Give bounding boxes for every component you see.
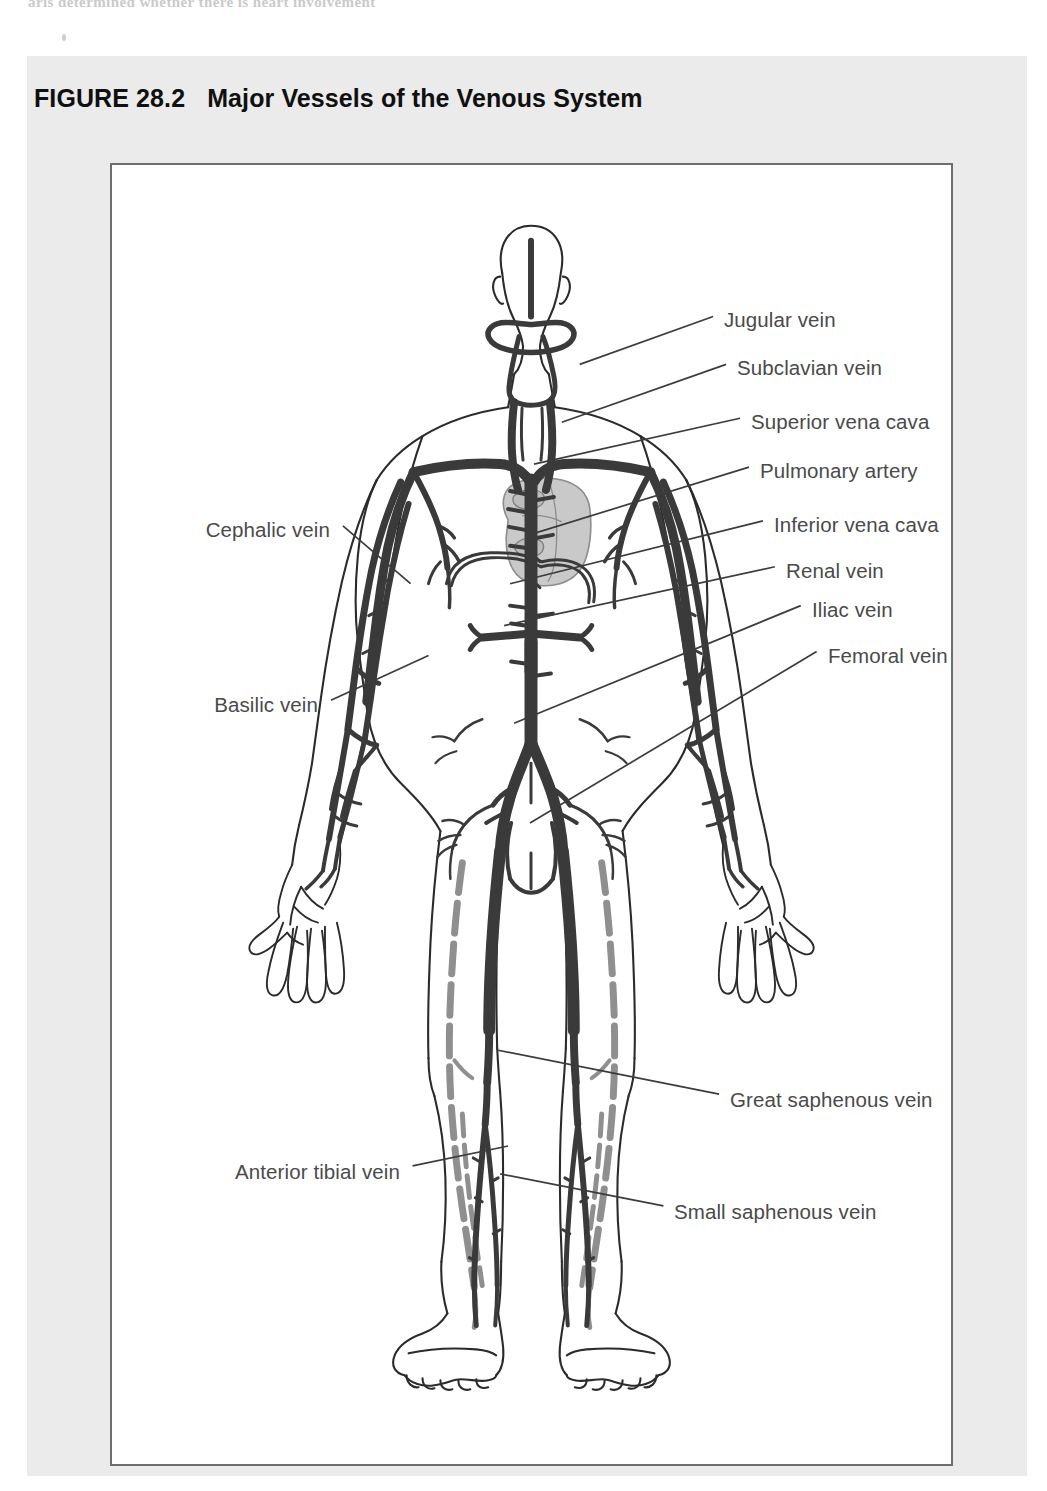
leader-great-saphenous-vein [498,1050,719,1094]
label-renal-vein: Renal vein [786,559,884,583]
label-great-saphenous-vein: Great saphenous vein [730,1088,933,1112]
leader-jugular-vein [580,317,713,365]
leader-iliac-vein [514,606,801,724]
figure-number: FIGURE 28.2 [34,84,185,112]
leader-superior-vena-cava [534,418,740,464]
figure-page: aris determined whether there is heart i… [0,0,1047,1491]
page-bleed-text: aris determined whether there is heart i… [28,0,648,12]
leader-femoral-vein [530,652,817,823]
label-cephalic-vein: Cephalic vein [206,518,330,542]
label-jugular-vein: Jugular vein [724,308,836,332]
label-anterior-tibial-vein: Anterior tibial vein [235,1160,400,1184]
leader-subclavian-vein [562,364,726,422]
label-subclavian-vein: Subclavian vein [737,356,882,380]
label-small-saphenous-vein: Small saphenous vein [674,1200,877,1224]
label-iliac-vein: Iliac vein [812,598,893,622]
leader-basilic-vein [331,655,429,700]
label-femoral-vein: Femoral vein [828,644,948,668]
figure-artwork-frame: Jugular vein Subclavian vein Superior ve… [110,163,953,1466]
figure-caption: FIGURE 28.2Major Vessels of the Venous S… [34,84,643,113]
scan-speck [62,34,66,41]
label-superior-vena-cava: Superior vena cava [751,410,929,434]
figure-title: Major Vessels of the Venous System [207,84,643,112]
label-basilic-vein: Basilic vein [214,693,318,717]
label-pulmonary-artery: Pulmonary artery [760,459,918,483]
label-inferior-vena-cava: Inferior vena cava [774,513,939,537]
leader-anterior-tibial-vein [413,1146,509,1166]
